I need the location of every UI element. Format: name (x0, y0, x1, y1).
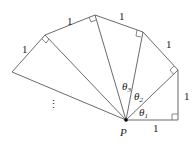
edge-bc (143, 32, 178, 70)
right-angle-icon (170, 66, 174, 75)
point-p-label: P (119, 126, 127, 138)
side-label-1: 1 (153, 122, 159, 134)
right-angle-marks (42, 17, 178, 120)
edge-ef (12, 35, 45, 72)
angle-label-theta1: θ1 (139, 106, 148, 120)
rays (12, 15, 178, 120)
right-angle-icon (172, 114, 178, 120)
side-label-2: 1 (184, 90, 190, 102)
continuation-ellipsis: ⋮ (48, 98, 59, 110)
right-angle-icon (42, 39, 49, 43)
side-label-6: 1 (22, 43, 28, 55)
point-p-dot (124, 118, 128, 122)
spiral-diagram: P 1 1 1 1 1 1 θ1 θ2 θ3 ⋮ (0, 0, 196, 145)
side-label-5: 1 (67, 15, 73, 27)
side-label-3: 1 (166, 38, 172, 50)
angle-label-theta2: θ2 (134, 90, 143, 104)
ray-pf (12, 72, 126, 120)
angle-label-theta3: θ3 (122, 80, 131, 94)
outer-edges (12, 15, 178, 120)
right-angle-icon (89, 17, 96, 22)
side-label-4: 1 (119, 10, 125, 22)
